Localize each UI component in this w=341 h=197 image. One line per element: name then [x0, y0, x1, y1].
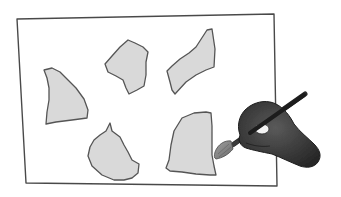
sketch-svg — [0, 0, 341, 197]
illustration-canvas: Hand-drawn sketch of a hand holding a pa… — [0, 0, 341, 197]
